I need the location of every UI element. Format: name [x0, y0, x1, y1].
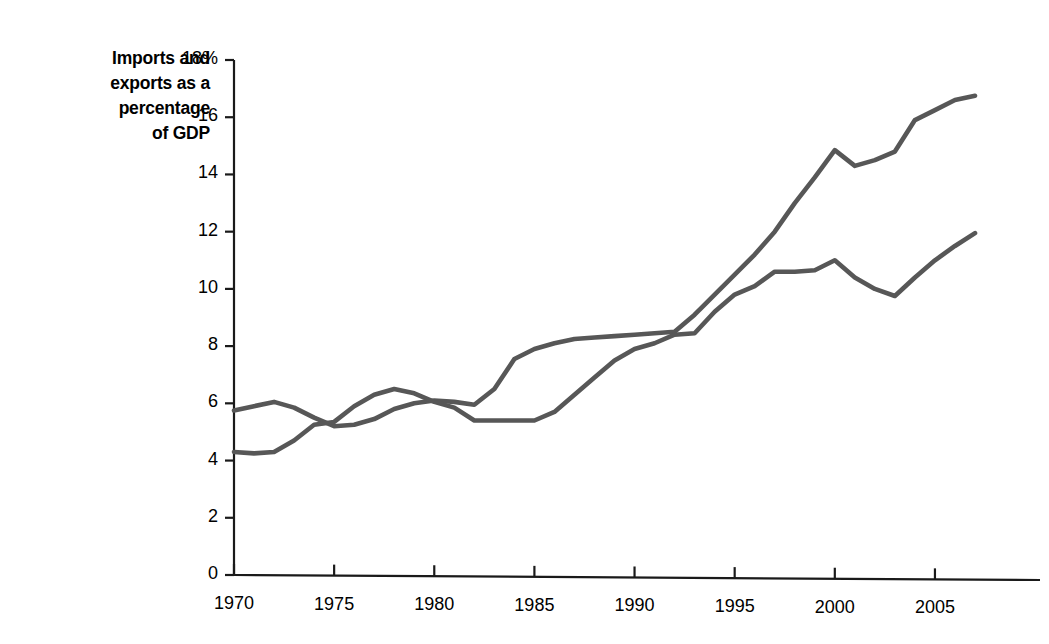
- y-tick-label-2: 2: [134, 506, 218, 527]
- x-tick-label-1970: 1970: [189, 593, 279, 614]
- series-line-imports: [234, 233, 975, 453]
- y-tick-label-18pct: 18%: [134, 48, 218, 69]
- y-tick-label-10: 10: [134, 277, 218, 298]
- chart-figure: Imports and exports as a percentage of G…: [0, 0, 1049, 644]
- data-series-group: [234, 96, 975, 454]
- x-axis-line: [234, 575, 1040, 580]
- x-tick-label-2000: 2000: [790, 597, 880, 618]
- y-tick-label-12: 12: [134, 220, 218, 241]
- y-tick-label-16: 16: [134, 105, 218, 126]
- x-tick-label-2005: 2005: [890, 597, 980, 618]
- y-tick-label-4: 4: [134, 449, 218, 470]
- x-tick-label-1980: 1980: [389, 594, 479, 615]
- axis-ticks: [225, 60, 935, 579]
- y-tick-label-8: 8: [134, 334, 218, 355]
- series-line-exports: [234, 96, 975, 426]
- x-tick-label-1975: 1975: [289, 594, 379, 615]
- y-tick-label-0: 0: [134, 563, 218, 584]
- x-tick-label-1995: 1995: [690, 596, 780, 617]
- y-tick-label-14: 14: [134, 162, 218, 183]
- axis-lines: [234, 60, 1040, 580]
- y-tick-label-6: 6: [134, 391, 218, 412]
- x-tick-label-1990: 1990: [590, 595, 680, 616]
- y-axis-title-line-2: exports as a: [30, 71, 210, 96]
- x-tick-label-1985: 1985: [489, 595, 579, 616]
